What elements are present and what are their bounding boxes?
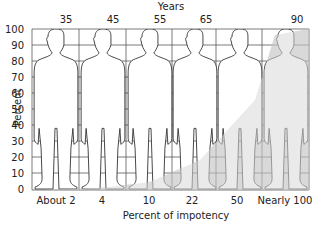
figure-age-55: [128, 29, 172, 189]
figure-age-35: [34, 29, 78, 189]
figure-age-45: [81, 29, 125, 189]
x-axis-label: Percent of impotency: [0, 210, 322, 221]
x-category-nearly-100: Nearly 100: [250, 195, 320, 206]
chart-plot: [0, 0, 322, 225]
